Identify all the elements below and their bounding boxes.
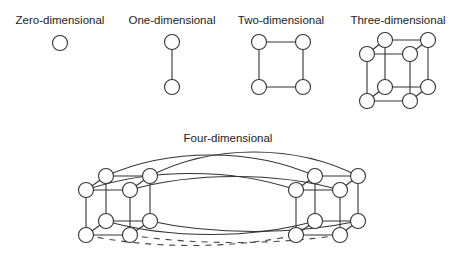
hyper-edge bbox=[106, 155, 315, 176]
vertex-node bbox=[143, 214, 158, 229]
vertex-node bbox=[308, 214, 323, 229]
vertex-node bbox=[79, 228, 94, 243]
vertex-node bbox=[333, 228, 348, 243]
panel-label: Zero-dimensional bbox=[16, 14, 105, 26]
vertex-node bbox=[360, 94, 375, 109]
vertex-node bbox=[421, 80, 436, 95]
panel-label: Three-dimensional bbox=[350, 14, 445, 26]
vertex-node bbox=[378, 80, 393, 95]
hyper-edge bbox=[86, 235, 296, 246]
panel-two-dimensional: Two-dimensional bbox=[238, 14, 324, 95]
vertex-node bbox=[123, 228, 138, 243]
panel-label: Four-dimensional bbox=[184, 132, 273, 144]
vertex-node bbox=[296, 35, 311, 50]
vertex-node bbox=[143, 169, 158, 184]
vertex-node bbox=[296, 80, 311, 95]
panel-four-dimensional: Four-dimensional bbox=[79, 132, 366, 246]
vertex-node bbox=[351, 169, 366, 184]
vertex-node bbox=[289, 183, 304, 198]
vertex-node bbox=[99, 214, 114, 229]
vertex-node bbox=[403, 47, 418, 62]
panel-zero-dimensional: Zero-dimensional bbox=[16, 14, 105, 51]
vertex-node bbox=[333, 183, 348, 198]
hyper-edge bbox=[150, 152, 358, 176]
hyper-edge bbox=[150, 221, 358, 232]
vertex-node bbox=[123, 183, 138, 198]
vertex-node bbox=[403, 94, 418, 109]
vertex-node bbox=[165, 80, 180, 95]
vertex-node bbox=[308, 169, 323, 184]
vertex-node bbox=[360, 47, 375, 62]
vertex-node bbox=[421, 33, 436, 48]
panel-label: One-dimensional bbox=[129, 14, 216, 26]
hypercube-diagram: Zero-dimensionalOne-dimensionalTwo-dimen… bbox=[0, 0, 458, 262]
panel-three-dimensional: Three-dimensional bbox=[350, 14, 445, 109]
diagram-canvas: Zero-dimensionalOne-dimensionalTwo-dimen… bbox=[0, 0, 458, 262]
vertex-node bbox=[252, 35, 267, 50]
vertex-node bbox=[378, 33, 393, 48]
vertex-node bbox=[165, 35, 180, 50]
vertex-node bbox=[79, 183, 94, 198]
vertex-node bbox=[53, 36, 68, 51]
vertex-node bbox=[252, 80, 267, 95]
panel-label: Two-dimensional bbox=[238, 14, 324, 26]
hyper-edge bbox=[130, 235, 340, 243]
vertex-node bbox=[289, 228, 304, 243]
vertex-node bbox=[99, 169, 114, 184]
vertex-node bbox=[351, 214, 366, 229]
panel-one-dimensional: One-dimensional bbox=[129, 14, 216, 95]
